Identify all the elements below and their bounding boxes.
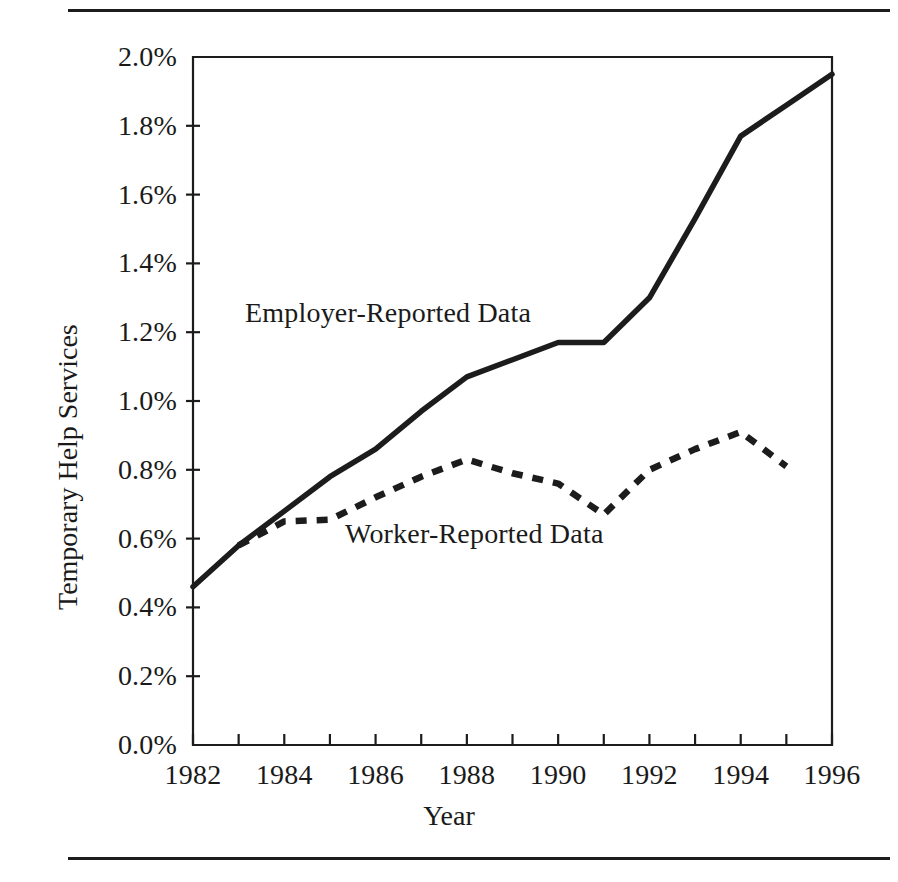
y-axis-title: Temporary Help Services <box>52 324 84 610</box>
x-axis-title: Year <box>0 800 898 832</box>
y-axis-tick-label: 2.0% <box>57 43 177 71</box>
chart-axes <box>186 57 832 745</box>
series-annotation-employer-reported: Employer-Reported Data <box>245 297 531 329</box>
plot-frame <box>193 57 832 745</box>
y-axis-tick-label: 1.6% <box>57 181 177 209</box>
chart-series <box>193 74 832 587</box>
y-axis-tick-label: 1.4% <box>57 249 177 277</box>
series-annotation-worker-reported: Worker-Reported Data <box>345 518 604 550</box>
x-axis-tick-label: 1996 <box>777 761 887 789</box>
y-axis-tick-label: 0.2% <box>57 662 177 690</box>
y-axis-tick-label: 1.8% <box>57 112 177 140</box>
series-line-employer-reported <box>193 74 832 587</box>
figure-container: 2.0%1.8%1.6%1.4%1.2%1.0%0.8%0.6%0.4%0.2%… <box>0 0 898 882</box>
y-axis-tick-label: 0.0% <box>57 731 177 759</box>
